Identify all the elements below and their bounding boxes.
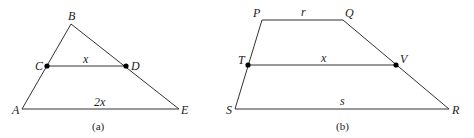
- caption-b: (b): [336, 120, 349, 133]
- label-ae-2x: 2x: [94, 95, 106, 109]
- point-t-dot: [245, 62, 250, 67]
- label-v: V: [400, 52, 409, 66]
- label-s: S: [226, 103, 232, 117]
- label-tv-x: x: [320, 51, 327, 65]
- point-v-dot: [393, 62, 398, 67]
- label-c: C: [35, 59, 44, 73]
- label-p: P: [252, 6, 261, 20]
- label-a: A: [11, 103, 20, 117]
- label-q: Q: [345, 6, 354, 20]
- label-e: E: [180, 103, 189, 117]
- label-cd-x: x: [82, 52, 89, 66]
- diagram-canvas: B C D A E x 2x (a) P Q r T V x S R s (b): [0, 0, 474, 138]
- label-pq-r: r: [301, 5, 306, 19]
- label-b: B: [68, 9, 76, 23]
- label-r: R: [451, 103, 460, 117]
- point-c-dot: [44, 63, 49, 68]
- point-d-dot: [123, 63, 128, 68]
- caption-a: (a): [92, 120, 105, 133]
- label-sr-s: s: [340, 94, 345, 108]
- label-d: D: [130, 59, 140, 73]
- label-t: T: [238, 53, 246, 67]
- geometry-figure: B C D A E x 2x (a) P Q r T V x S R s (b): [0, 0, 474, 138]
